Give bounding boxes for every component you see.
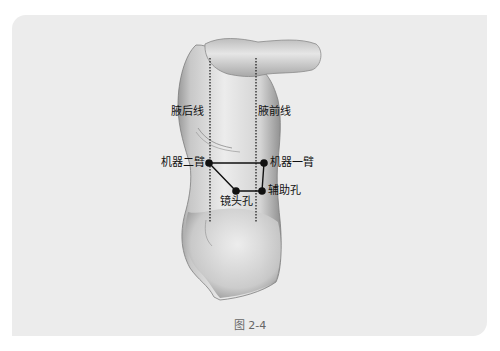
robot-arm-1-label: 机器一臂 (270, 157, 314, 168)
hip-shape (185, 209, 280, 299)
robot-arm-1-marker (260, 159, 268, 167)
posterior-axillary-line-label: 腋后线 (171, 106, 204, 117)
figure-caption: 图 2-4 (0, 316, 500, 332)
assistant-port-marker (258, 187, 266, 195)
robot-arm-2-label: 机器二臂 (161, 157, 205, 168)
arm-shape (205, 39, 321, 77)
anterior-axillary-line-label: 腋前线 (258, 106, 291, 117)
assistant-port-label: 辅助孔 (268, 185, 301, 196)
camera-port-marker (232, 187, 240, 195)
camera-port-label: 镜头孔 (220, 196, 253, 207)
torso-illustration (0, 0, 500, 351)
robot-arm-2-marker (205, 159, 213, 167)
